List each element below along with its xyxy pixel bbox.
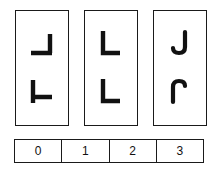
panel-1[interactable] — [15, 10, 69, 126]
index-cell-3[interactable]: 3 — [157, 140, 203, 162]
panel-1-glyph-top — [22, 23, 62, 63]
panel-3[interactable] — [153, 10, 207, 126]
index-cell-0[interactable]: 0 — [15, 140, 62, 162]
l-shape-rotated-90-icon — [27, 76, 57, 106]
panel-2-glyph-top — [91, 23, 131, 63]
panel-2[interactable] — [84, 10, 138, 126]
index-cell-1[interactable]: 1 — [62, 140, 109, 162]
answer-index-bar: 0 1 2 3 — [14, 139, 204, 163]
index-cell-2[interactable]: 2 — [110, 140, 157, 162]
panel-3-glyph-top — [160, 23, 200, 63]
stage: 0 1 2 3 — [0, 0, 218, 169]
panel-2-glyph-bottom — [91, 71, 131, 111]
j-shape-rotated-180-icon — [165, 76, 195, 106]
l-shape-icon — [96, 28, 126, 58]
l-shape-icon — [96, 76, 126, 106]
panel-3-glyph-bottom — [160, 71, 200, 111]
l-shape-rotated-180-icon — [27, 28, 57, 58]
j-shape-icon — [165, 28, 195, 58]
panel-row — [15, 10, 207, 128]
panel-1-glyph-bottom — [22, 71, 62, 111]
